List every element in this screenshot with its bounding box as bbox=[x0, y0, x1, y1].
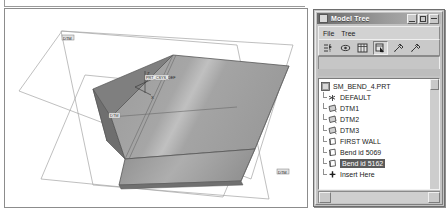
tree-select-icon[interactable] bbox=[373, 41, 388, 55]
model-tree-icon bbox=[319, 14, 328, 23]
tree-item-part[interactable]: SM_BEND_4.PRT bbox=[321, 81, 430, 92]
close-button[interactable] bbox=[429, 14, 439, 24]
tree-item-dtm1[interactable]: DTM1 bbox=[321, 103, 430, 114]
tree-tool-2-icon[interactable] bbox=[409, 42, 422, 54]
tree-indent bbox=[321, 114, 328, 125]
tree-indent bbox=[321, 169, 328, 180]
svg-text:DTM: DTM bbox=[63, 36, 72, 41]
tree-item-label: SM_BEND_4.PRT bbox=[333, 82, 390, 91]
tree-item-bend-5069[interactable]: Bend id 5069 bbox=[321, 147, 430, 158]
svg-text:PRT_CSYS_DEF: PRT_CSYS_DEF bbox=[146, 76, 176, 80]
model-tree-title: Model Tree bbox=[331, 15, 407, 22]
tree-columns-icon[interactable] bbox=[356, 42, 369, 54]
tree-horizontal-scrollbar[interactable] bbox=[318, 191, 440, 203]
graphics-top-strip bbox=[4, 0, 305, 7]
maximize-button[interactable] bbox=[418, 14, 428, 24]
tree-indent bbox=[321, 92, 328, 103]
tree-item-label: Bend id 5069 bbox=[340, 148, 381, 157]
tree-vertical-scrollbar[interactable] bbox=[430, 79, 439, 189]
tree-item-dtm2[interactable]: DTM2 bbox=[321, 114, 430, 125]
sheetmetal-model-render: DTM DTM DTM Z Y X PRT_CSYS_DEF bbox=[5, 9, 307, 207]
menu-tree[interactable]: Tree bbox=[341, 30, 355, 37]
datum-label-edge: DTM bbox=[109, 113, 120, 118]
model-tree-window[interactable]: Model Tree File Tree bbox=[313, 9, 445, 207]
tree-item-label: DEFAULT bbox=[340, 93, 371, 102]
model-tree-toolbar bbox=[318, 39, 440, 56]
menu-file[interactable]: File bbox=[323, 30, 334, 37]
datum-label-right: DTM bbox=[277, 169, 289, 175]
insert-here-icon bbox=[328, 170, 337, 179]
tree-item-dtm3[interactable]: DTM3 bbox=[321, 125, 430, 136]
tree-indent bbox=[321, 125, 328, 136]
datum-label-top: DTM bbox=[62, 35, 74, 41]
tree-indent bbox=[321, 103, 328, 114]
datum-plane-icon bbox=[328, 104, 337, 113]
datum-plane-icon bbox=[328, 115, 337, 124]
tree-tool-1-icon[interactable] bbox=[392, 42, 405, 54]
show-tree-filters-icon[interactable] bbox=[322, 42, 335, 54]
tree-indent bbox=[321, 158, 328, 169]
datum-plane-icon bbox=[328, 126, 337, 135]
tree-item-first-wall[interactable]: FIRST WALL bbox=[321, 136, 430, 147]
tree-item-label: Bend id 5162 bbox=[340, 159, 385, 168]
tree-toolbar-spacer bbox=[318, 69, 440, 76]
application-screenshot: DTM DTM DTM Z Y X PRT_CSYS_DEF bbox=[0, 0, 446, 213]
svg-text:X: X bbox=[151, 95, 154, 100]
tree-indent bbox=[321, 147, 328, 158]
wall-feature-icon bbox=[328, 137, 337, 146]
tree-item-label: FIRST WALL bbox=[340, 137, 381, 146]
tree-item-insert-here[interactable]: Insert Here bbox=[321, 169, 430, 180]
model-tree-menubar: File Tree bbox=[318, 26, 440, 40]
svg-text:DTM: DTM bbox=[278, 170, 287, 175]
tree-item-label: DTM1 bbox=[340, 104, 359, 113]
tree-filter-field[interactable] bbox=[318, 56, 440, 70]
window-buttons bbox=[407, 14, 439, 24]
display-settings-icon[interactable] bbox=[339, 42, 352, 54]
scroll-up-button[interactable] bbox=[430, 79, 439, 90]
tree-item-bend-5162[interactable]: Bend id 5162 bbox=[321, 158, 430, 169]
svg-text:DTM: DTM bbox=[110, 113, 119, 118]
wall-feature-icon bbox=[328, 148, 337, 157]
scroll-right-button[interactable] bbox=[428, 192, 440, 203]
minimize-button[interactable] bbox=[407, 14, 417, 24]
graphics-viewport[interactable]: DTM DTM DTM Z Y X PRT_CSYS_DEF bbox=[4, 8, 308, 208]
model-tree-titlebar[interactable]: Model Tree bbox=[317, 13, 441, 24]
model-tree-list: SM_BEND_4.PRT DEFAULT bbox=[319, 79, 430, 189]
coordinate-system-icon bbox=[328, 93, 337, 102]
tree-item-label: Insert Here bbox=[340, 170, 375, 179]
tree-item-default-csys[interactable]: DEFAULT bbox=[321, 92, 430, 103]
tree-item-label: DTM2 bbox=[340, 115, 359, 124]
tree-item-label: DTM3 bbox=[340, 126, 359, 135]
model-tree-pane[interactable]: SM_BEND_4.PRT DEFAULT bbox=[318, 78, 440, 190]
tree-indent bbox=[321, 136, 328, 147]
wall-feature-icon bbox=[328, 159, 337, 168]
part-icon bbox=[321, 82, 330, 91]
scroll-left-button[interactable] bbox=[319, 192, 331, 203]
